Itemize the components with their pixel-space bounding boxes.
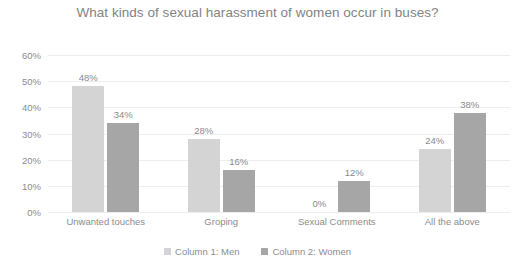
bar-value-label: 16% <box>229 156 248 167</box>
bar <box>419 149 451 212</box>
y-axis: 0%10%20%30%40%50%60% <box>0 0 48 266</box>
y-axis-tick: 60% <box>22 50 41 61</box>
y-axis-tick: 20% <box>22 154 41 165</box>
legend-item[interactable]: Column 1: Men <box>164 246 239 257</box>
y-axis-tick: 40% <box>22 102 41 113</box>
bar-value-label: 28% <box>194 125 213 136</box>
legend-label: Column 2: Women <box>272 246 351 257</box>
bar <box>107 123 139 212</box>
bar-value-label: 12% <box>345 167 364 178</box>
legend-swatch-icon <box>261 248 268 255</box>
bar-value-label: 38% <box>460 99 479 110</box>
y-axis-tick: 10% <box>22 180 41 191</box>
y-axis-tick: 30% <box>22 128 41 139</box>
bar <box>72 86 104 212</box>
x-axis-category-label: Sexual Comments <box>298 216 376 227</box>
bar-value-label: 48% <box>79 72 98 83</box>
legend-swatch-icon <box>164 248 171 255</box>
x-axis-category-label: All the above <box>425 216 480 227</box>
chart-legend: Column 1: MenColumn 2: Women <box>0 246 515 257</box>
bar <box>338 181 370 212</box>
bar <box>188 139 220 212</box>
y-axis-tick: 0% <box>27 207 41 218</box>
legend-label: Column 1: Men <box>175 246 239 257</box>
x-axis-category-label: Unwanted touches <box>66 216 145 227</box>
bar-value-label: 0% <box>312 198 326 209</box>
x-axis-category-label: Groping <box>204 216 238 227</box>
bar <box>454 113 486 212</box>
y-axis-tick: 50% <box>22 76 41 87</box>
gridline <box>48 81 510 82</box>
gridline <box>48 55 510 56</box>
plot-area: 48%34%28%16%0%12%24%38% <box>48 55 510 212</box>
x-axis: Unwanted touchesGropingSexual CommentsAl… <box>48 216 510 234</box>
bar-chart: What kinds of sexual harassment of women… <box>0 0 515 266</box>
gridline <box>48 212 510 213</box>
bar-value-label: 34% <box>114 109 133 120</box>
bar-value-label: 24% <box>425 135 444 146</box>
legend-item[interactable]: Column 2: Women <box>261 246 351 257</box>
bar <box>223 170 255 212</box>
chart-title: What kinds of sexual harassment of women… <box>55 3 460 22</box>
